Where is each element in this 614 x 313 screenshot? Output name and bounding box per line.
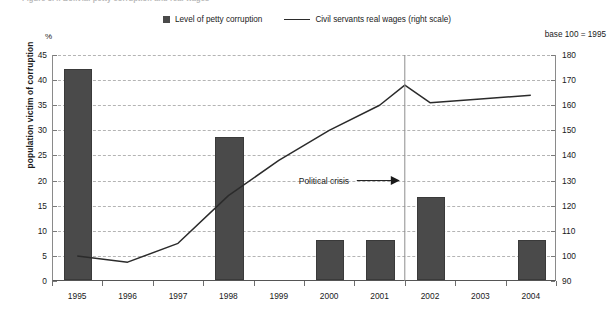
legend-entry-real-wages: Civil servants real wages (right scale) — [284, 15, 451, 24]
bar-swatch-icon — [163, 16, 170, 23]
right-tick-label: 110 — [562, 226, 575, 236]
x-tick-label-2003: 2003 — [471, 291, 490, 301]
x-tick-label-1999: 1999 — [269, 291, 288, 301]
right-axis-tick-labels: 90100110120130140150160170180 — [562, 55, 612, 281]
x-tick-label-2002: 2002 — [421, 291, 440, 301]
left-tick-label: 5 — [0, 251, 47, 261]
x-tick-label-2000: 2000 — [320, 291, 339, 301]
line-series-overlay — [52, 55, 556, 281]
left-tick-label: 35 — [0, 100, 47, 110]
x-axis: 1995199619971998199920002001200220032004 — [52, 281, 556, 311]
left-tick-label: 0 — [0, 276, 47, 286]
left-axis-tick-labels: 051015202530354045 — [0, 55, 47, 281]
x-tick-label-2001: 2001 — [370, 291, 389, 301]
left-tick-label: 15 — [0, 201, 47, 211]
x-tick-mark — [556, 281, 557, 286]
x-tick-label-1997: 1997 — [169, 291, 188, 301]
left-tick-label: 45 — [0, 50, 47, 60]
legend-entry-petty-corruption: Level of petty corruption — [163, 15, 262, 24]
right-tick-label: 150 — [562, 125, 576, 135]
left-tick-label: 10 — [0, 226, 47, 236]
right-tick-label: 160 — [562, 100, 576, 110]
x-tick-mark — [506, 281, 507, 286]
real-wages-line — [77, 85, 531, 262]
legend-label-petty-corruption: Level of petty corruption — [175, 15, 262, 24]
x-tick-mark — [153, 281, 154, 286]
right-tick-label: 180 — [562, 50, 576, 60]
x-tick-mark — [304, 281, 305, 286]
legend-label-real-wages: Civil servants real wages (right scale) — [315, 15, 451, 24]
right-tick-label: 120 — [562, 201, 576, 211]
right-tick-label: 140 — [562, 150, 576, 160]
political-crisis-label: Political crisis — [299, 176, 349, 186]
x-tick-mark — [354, 281, 355, 286]
x-tick-mark — [203, 281, 204, 286]
x-tick-mark — [102, 281, 103, 286]
x-tick-mark — [254, 281, 255, 286]
right-tick-label: 130 — [562, 176, 576, 186]
right-tick-label: 90 — [562, 276, 571, 286]
x-tick-label-1996: 1996 — [118, 291, 137, 301]
x-tick-mark — [405, 281, 406, 286]
x-tick-mark — [52, 281, 53, 286]
x-tick-label-1998: 1998 — [219, 291, 238, 301]
political-crisis-arrow-head-icon — [391, 176, 400, 185]
right-axis-note: base 100 = 1995 — [545, 30, 606, 39]
figure-title: Figure 3.4. Bolivia: petty corruption an… — [22, 0, 209, 3]
left-tick-label: 20 — [0, 176, 47, 186]
right-tick-label: 170 — [562, 75, 576, 85]
x-tick-label-1995: 1995 — [68, 291, 87, 301]
left-tick-label: 30 — [0, 125, 47, 135]
line-swatch-icon — [284, 19, 310, 20]
x-tick-mark — [455, 281, 456, 286]
left-axis-unit: % — [45, 32, 52, 41]
right-tick-label: 100 — [562, 251, 576, 261]
left-tick-label: 40 — [0, 75, 47, 85]
chart-legend: Level of petty corruption Civil servants… — [0, 15, 614, 24]
x-tick-label-2004: 2004 — [521, 291, 540, 301]
left-tick-label: 25 — [0, 150, 47, 160]
